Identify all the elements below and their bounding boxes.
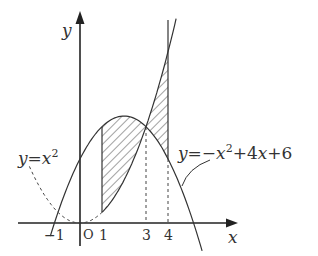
graph-diagram: y x O −1 1 3 4 y=x2 y=−x2+4x+6 xyxy=(0,0,318,256)
y-axis-arrow-icon xyxy=(76,11,85,24)
shaded-region-3-to-4 xyxy=(146,52,168,159)
x-axis-label: x xyxy=(228,227,238,247)
tick-label-4: 4 xyxy=(164,227,173,243)
callout-leader xyxy=(182,160,210,186)
tick-label-1: 1 xyxy=(99,227,108,243)
curve-x-squared-dashed xyxy=(29,166,102,223)
tick-label-neg1: −1 xyxy=(44,227,65,243)
tick-label-3: 3 xyxy=(142,227,151,243)
shaded-region-1-to-3 xyxy=(102,116,146,212)
label-neg-parabola: y=−x2+4x+6 xyxy=(177,142,292,163)
y-axis-label: y xyxy=(61,20,72,40)
svg-text:y=x2: y=x2 xyxy=(17,147,58,168)
origin-label: O xyxy=(83,227,94,242)
svg-text:y=−x2+4x+6: y=−x2+4x+6 xyxy=(177,142,292,163)
label-x-squared: y=x2 xyxy=(17,147,58,168)
